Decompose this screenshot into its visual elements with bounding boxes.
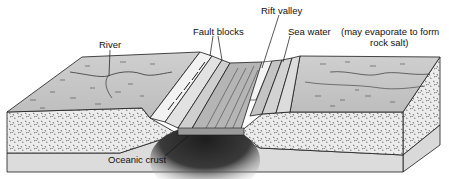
rift-block-diagram: River Fault blocks Rift valley Sea water…: [0, 0, 449, 179]
label-fault-blocks: Fault blocks: [193, 27, 244, 37]
rift-valley-leader: [262, 15, 279, 68]
fault-blocks-leader-1: [210, 36, 213, 56]
label-evaporate-line1: (may evaporate to form: [341, 27, 439, 37]
right-sediment-layer: [240, 112, 403, 155]
label-sea-water: Sea water: [288, 27, 331, 37]
label-rift-valley: Rift valley: [261, 6, 302, 16]
label-evaporate-line2: rock salt): [370, 38, 409, 48]
label-oceanic-crust: Oceanic crust: [108, 155, 166, 165]
label-river: River: [99, 40, 121, 50]
rift-base-hatch: [178, 128, 244, 135]
fault-blocks-leader-2: [218, 36, 222, 60]
sea-water-leader: [283, 36, 290, 62]
